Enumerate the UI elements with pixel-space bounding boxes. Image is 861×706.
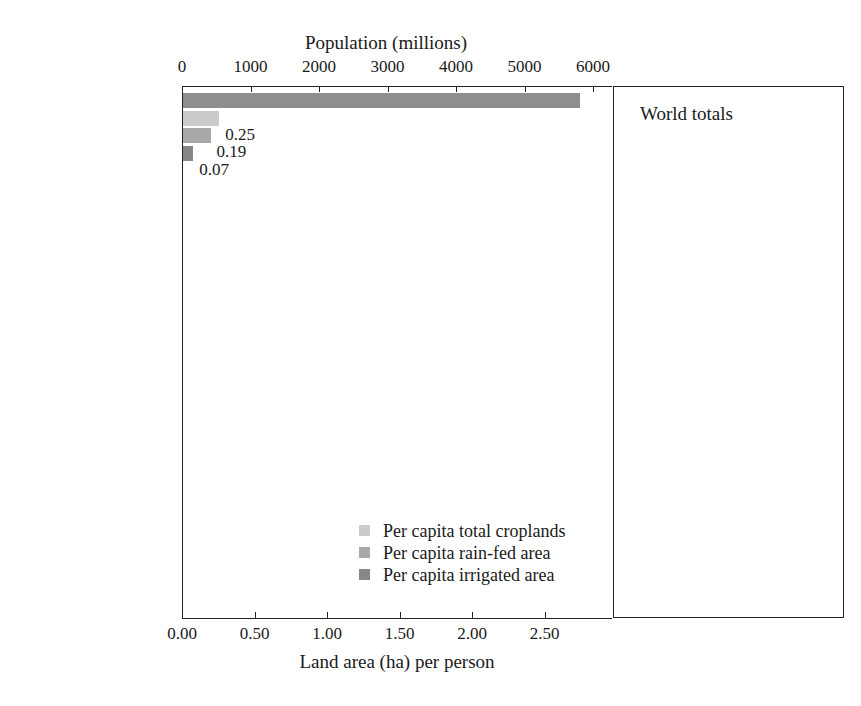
- top-axis-tick-label: 3000: [353, 58, 423, 75]
- legend-label-total-croplands: Per capita total croplands: [383, 521, 565, 542]
- legend-label-rain-fed: Per capita rain-fed area: [383, 543, 550, 564]
- bar-irrigated-value: 0.07: [199, 161, 229, 178]
- chart-figure: Population (millions) 010002000300040005…: [0, 0, 861, 706]
- bar-rain-fed: [183, 128, 211, 143]
- bottom-axis-tick: [182, 612, 183, 618]
- bottom-axis-tick-label: 2.50: [510, 625, 580, 642]
- top-axis-tick-label: 1000: [216, 58, 286, 75]
- top-axis-tick-label: 0: [147, 58, 217, 75]
- world-totals-title: World totals: [640, 103, 733, 125]
- legend-swatch-total-croplands: [359, 525, 370, 536]
- bar-population: [183, 93, 580, 108]
- bar-total-croplands: [183, 111, 219, 126]
- top-axis-tick-label: 2000: [284, 58, 354, 75]
- bar-irrigated: [183, 146, 193, 161]
- legend-label-irrigated: Per capita irrigated area: [383, 565, 554, 586]
- bottom-axis-tick-label: 0.00: [147, 625, 217, 642]
- bottom-axis-tick: [472, 612, 473, 618]
- top-axis-tick-label: 5000: [490, 58, 560, 75]
- bottom-axis-tick-label: 0.50: [220, 625, 290, 642]
- bottom-axis-tick: [255, 612, 256, 618]
- top-axis-title: Population (millions): [182, 33, 590, 52]
- bottom-axis-line: [182, 618, 612, 619]
- legend-swatch-rain-fed: [359, 547, 370, 558]
- world-totals-panel: World totals: [613, 86, 844, 618]
- top-axis-tick-label: 4000: [421, 58, 491, 75]
- bottom-axis-tick: [327, 612, 328, 618]
- bottom-axis-title: Land area (ha) per person: [182, 652, 612, 671]
- bottom-axis-tick-label: 2.00: [437, 625, 507, 642]
- top-axis-tick-label: 6000: [558, 58, 628, 75]
- legend-swatch-irrigated: [359, 569, 370, 580]
- bar-rain-fed-value: 0.19: [217, 143, 247, 160]
- bottom-axis-tick-label: 1.50: [365, 625, 435, 642]
- bar-total-croplands-value: 0.25: [225, 126, 255, 143]
- bottom-axis-tick: [545, 612, 546, 618]
- bottom-axis-tick: [400, 612, 401, 618]
- bottom-axis-tick-label: 1.00: [292, 625, 362, 642]
- left-plot-area: 0.250.190.07 Per capita total croplands …: [182, 86, 612, 618]
